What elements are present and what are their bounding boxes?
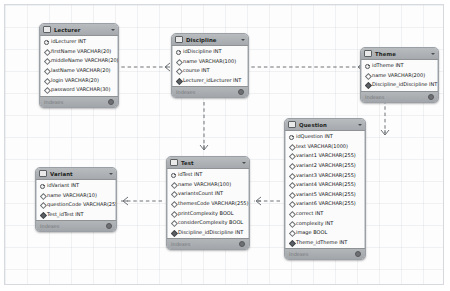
table-field-row[interactable]: name VARCHAR(10) — [37, 191, 115, 201]
table-field-row[interactable]: variant3 VARCHAR(255) — [286, 170, 364, 180]
table-field-row[interactable]: printComplexity BOOL — [168, 208, 248, 218]
field-label: idTest INT — [178, 172, 202, 177]
expand-indexes-icon[interactable] — [106, 223, 112, 229]
table-title: Lecturer — [54, 27, 108, 33]
table-header[interactable]: Lecturer — [40, 24, 118, 36]
table-field-row[interactable]: variant5 VARCHAR(255) — [286, 190, 364, 200]
table-footer[interactable]: Indexes — [167, 238, 249, 249]
table-field-row[interactable]: Test_idTest INT — [37, 210, 115, 220]
table-header[interactable]: Theme — [361, 48, 438, 60]
field-label: variant6 VARCHAR(255) — [296, 201, 356, 206]
chevron-down-icon[interactable] — [241, 39, 245, 41]
table-fields: idDiscipline INTname VARCHAR(100)course … — [172, 46, 248, 86]
table-field-row[interactable]: password VARCHAR(30) — [41, 85, 117, 95]
foreign-key-icon — [289, 240, 294, 245]
table-theme[interactable]: ThemeidTheme INTname VARCHAR(200)Discipl… — [360, 47, 439, 103]
expand-indexes-icon[interactable] — [428, 94, 434, 100]
table-discipline[interactable]: DisciplineidDiscipline INTname VARCHAR(1… — [171, 33, 249, 98]
chevron-down-icon[interactable] — [111, 29, 115, 31]
table-field-row[interactable]: questionCode VARCHAR(255) — [37, 200, 115, 210]
column-icon — [44, 87, 49, 92]
table-field-row[interactable]: firstName VARCHAR(20) — [41, 47, 117, 57]
table-field-row[interactable]: lastName VARCHAR(20) — [41, 66, 117, 76]
table-field-row[interactable]: correct INT — [286, 209, 364, 219]
table-field-row[interactable]: course INT — [173, 66, 247, 76]
column-icon — [171, 211, 176, 216]
table-field-row[interactable]: variant6 VARCHAR(255) — [286, 199, 364, 209]
table-header[interactable]: Discipline — [172, 34, 248, 46]
indexes-label: Indexes — [289, 251, 308, 257]
column-icon — [289, 230, 294, 235]
field-label: image BOOL — [296, 230, 327, 235]
field-label: correct INT — [296, 211, 323, 216]
table-field-row[interactable]: Discipline_idDiscipline INT — [168, 228, 248, 238]
field-label: variant1 VARCHAR(255) — [296, 153, 356, 158]
column-icon — [289, 192, 294, 197]
table-title: Theme — [375, 51, 428, 57]
column-icon — [289, 211, 294, 216]
table-field-row[interactable]: idDiscipline INT — [173, 47, 247, 57]
indexes-label: Indexes — [40, 223, 59, 229]
table-header[interactable]: Test — [167, 157, 249, 169]
table-field-row[interactable]: Theme_idTheme INT — [286, 238, 364, 248]
table-field-row[interactable]: login VARCHAR(20) — [41, 75, 117, 85]
table-icon — [364, 50, 372, 57]
table-field-row[interactable]: name VARCHAR(100) — [168, 180, 248, 190]
chevron-down-icon[interactable] — [431, 53, 435, 55]
indexes-label: Indexes — [365, 94, 384, 100]
table-field-row[interactable]: image BOOL — [286, 228, 364, 238]
table-field-row[interactable]: idQuestion INT — [286, 132, 364, 142]
table-field-row[interactable]: themesCode VARCHAR(255) — [168, 199, 248, 209]
table-header[interactable]: Question — [285, 119, 365, 131]
table-field-row[interactable]: idTest INT — [168, 170, 248, 180]
table-footer[interactable]: Indexes — [361, 91, 438, 102]
column-icon — [289, 163, 294, 168]
table-field-row[interactable]: name VARCHAR(200) — [362, 71, 437, 81]
field-label: Lecturer_idLecturer INT — [183, 78, 241, 83]
field-label: firstName VARCHAR(20) — [51, 49, 111, 54]
table-field-row[interactable]: Discipline_idDiscipline INT — [362, 80, 437, 90]
field-label: Test_idTest INT — [47, 212, 84, 217]
column-icon — [40, 193, 45, 198]
primary-key-icon — [44, 39, 49, 44]
expand-indexes-icon[interactable] — [238, 89, 244, 95]
foreign-key-icon — [176, 78, 181, 83]
table-field-row[interactable]: text VARCHAR(1000) — [286, 142, 364, 152]
field-label: variantsCount INT — [178, 191, 223, 196]
expand-indexes-icon[interactable] — [239, 241, 245, 247]
table-field-row[interactable]: Lecturer_idLecturer INT — [173, 76, 247, 86]
chevron-down-icon[interactable] — [109, 173, 113, 175]
field-label: variant3 VARCHAR(255) — [296, 173, 356, 178]
table-footer[interactable]: Indexes — [172, 86, 248, 97]
expand-indexes-icon[interactable] — [355, 251, 361, 257]
chevron-down-icon[interactable] — [358, 124, 362, 126]
table-question[interactable]: QuestionidQuestion INTtext VARCHAR(1000)… — [284, 118, 366, 260]
chevron-down-icon[interactable] — [242, 162, 246, 164]
table-footer[interactable]: Indexes — [285, 248, 365, 259]
field-label: complexity INT — [296, 221, 333, 226]
table-field-row[interactable]: variant1 VARCHAR(255) — [286, 151, 364, 161]
table-variant[interactable]: VariantidVariant INTname VARCHAR(10)ques… — [35, 167, 117, 232]
table-field-row[interactable]: idLecturer INT — [41, 37, 117, 47]
table-field-row[interactable]: variantsCount INT — [168, 189, 248, 199]
table-lecturer[interactable]: LectureridLecturer INTfirstName VARCHAR(… — [39, 23, 119, 108]
table-field-row[interactable]: considerComplexity BOOL — [168, 218, 248, 228]
field-label: idQuestion INT — [296, 134, 333, 139]
column-icon — [289, 173, 294, 178]
table-field-row[interactable]: name VARCHAR(100) — [173, 57, 247, 67]
table-field-row[interactable]: variant2 VARCHAR(255) — [286, 161, 364, 171]
table-field-row[interactable]: variant4 VARCHAR(255) — [286, 180, 364, 190]
table-icon — [170, 159, 178, 166]
table-field-row[interactable]: idTheme INT — [362, 61, 437, 71]
table-test[interactable]: TestidTest INTname VARCHAR(100)variantsC… — [166, 156, 250, 250]
table-field-row[interactable]: complexity INT — [286, 218, 364, 228]
field-label: variant5 VARCHAR(255) — [296, 192, 356, 197]
diagram-canvas[interactable]: LectureridLecturer INTfirstName VARCHAR(… — [4, 4, 444, 285]
table-field-row[interactable]: middleName VARCHAR(20) — [41, 56, 117, 66]
table-footer[interactable]: Indexes — [36, 220, 116, 231]
table-field-row[interactable]: idVariant INT — [37, 181, 115, 191]
expand-indexes-icon[interactable] — [108, 99, 114, 105]
field-label: name VARCHAR(10) — [47, 193, 97, 198]
table-header[interactable]: Variant — [36, 168, 116, 180]
table-footer[interactable]: Indexes — [40, 96, 118, 107]
